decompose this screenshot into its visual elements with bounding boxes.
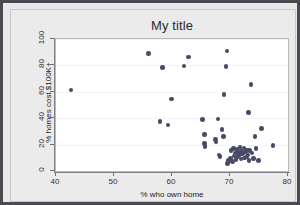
data-point — [203, 144, 208, 149]
gridline — [56, 118, 288, 119]
gridline — [56, 39, 288, 40]
graph-region: My title 4050607080 020406080100 % who o… — [10, 9, 296, 202]
data-point — [169, 97, 174, 102]
data-point — [220, 127, 225, 132]
x-tick-label: 70 — [216, 177, 242, 186]
data-point — [249, 82, 254, 87]
data-point — [214, 140, 219, 145]
plot-area — [55, 38, 289, 172]
x-tick-mark — [55, 173, 56, 176]
x-tick-label: 80 — [274, 177, 300, 186]
data-point — [256, 158, 261, 163]
gridline — [56, 92, 288, 93]
data-point — [225, 49, 230, 54]
data-point — [250, 151, 255, 156]
x-tick-mark — [171, 173, 172, 176]
figure-frame: My title 4050607080 020406080100 % who o… — [0, 0, 300, 205]
data-point — [182, 64, 187, 69]
data-point — [254, 146, 259, 151]
data-point — [146, 51, 151, 56]
gridline — [56, 145, 288, 146]
x-axis-title: % who own home — [55, 190, 289, 199]
data-point — [200, 117, 205, 122]
x-tick-label: 50 — [100, 177, 126, 186]
data-point — [224, 64, 229, 69]
gridline — [56, 65, 288, 66]
data-point — [216, 117, 221, 122]
chart-title: My title — [55, 18, 289, 33]
data-point — [186, 55, 191, 60]
y-axis-line — [54, 38, 55, 173]
data-point — [222, 92, 227, 97]
data-point — [221, 134, 226, 139]
data-point — [246, 110, 251, 115]
y-axis-title: % homes cost $100K+ — [44, 33, 53, 173]
x-tick-label: 60 — [158, 177, 184, 186]
data-point — [158, 119, 163, 124]
x-tick-mark — [229, 173, 230, 176]
data-point — [166, 123, 171, 128]
data-point — [160, 65, 165, 70]
data-point — [202, 132, 207, 137]
x-axis-line — [55, 172, 290, 173]
data-point — [271, 143, 276, 148]
x-tick-mark — [287, 173, 288, 176]
data-point — [259, 126, 264, 131]
data-point — [218, 154, 223, 159]
x-tick-mark — [113, 173, 114, 176]
x-tick-label: 40 — [42, 177, 68, 186]
data-point — [253, 134, 258, 139]
